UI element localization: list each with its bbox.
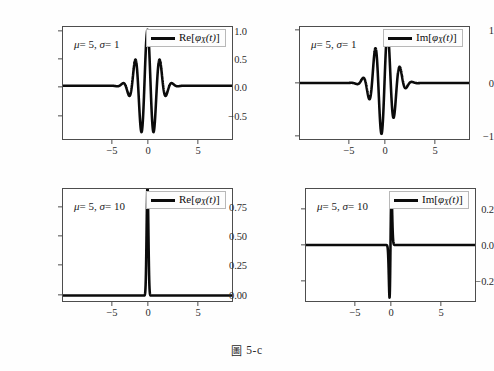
legend-suffix: ] bbox=[216, 31, 220, 43]
mu-value: = 5, bbox=[317, 38, 334, 50]
panel-bottom-left: 0.75 0.50 0.25 0.00 −5 0 5 μ= 5, σ= 10 R… bbox=[0, 176, 247, 336]
legend-line-swatch bbox=[388, 37, 412, 40]
ytick-label: 0.0 bbox=[191, 82, 247, 93]
legend-top-left[interactable]: Re[φX(t)] bbox=[146, 29, 226, 47]
ytick-label: 0.0 bbox=[442, 240, 494, 251]
legend-label: Re[φX(t)] bbox=[179, 194, 220, 206]
annotation-params: μ= 5, σ= 1 bbox=[74, 38, 119, 50]
sigma-value: = 10 bbox=[348, 200, 368, 212]
ytick-mark bbox=[58, 58, 62, 59]
mu-value: = 5, bbox=[80, 200, 97, 212]
ytick-mark bbox=[58, 206, 62, 207]
legend-suffix: ] bbox=[453, 31, 457, 43]
xtick-mark bbox=[111, 140, 112, 144]
figure-container: 1.0 0.5 0.0 −0.5 −5 0 5 μ= 5, σ= 1 Re[φX… bbox=[0, 0, 494, 371]
ytick-label: 0.00 bbox=[191, 290, 247, 301]
xtick-label: 5 bbox=[195, 145, 200, 156]
panel-bottom-right: 0.2 0.0 −0.2 −5 0 5 μ= 5, σ= 10 Im[φX(t)… bbox=[247, 176, 494, 336]
ytick-mark bbox=[301, 208, 305, 209]
xtick-mark bbox=[390, 302, 391, 306]
panel-top-left: 1.0 0.5 0.0 −0.5 −5 0 5 μ= 5, σ= 1 Re[φX… bbox=[0, 0, 247, 176]
caption-number: 5-c bbox=[246, 344, 262, 356]
ytick-label: 0.25 bbox=[191, 260, 247, 271]
phi-argument: (t) bbox=[443, 31, 453, 43]
sigma-value: = 1 bbox=[105, 38, 119, 50]
legend-label: Im[φX(t)] bbox=[416, 32, 457, 44]
phi-argument: (t) bbox=[449, 193, 459, 205]
annotation-params: μ= 5, σ= 10 bbox=[317, 200, 368, 212]
ytick-label: −1 bbox=[448, 131, 494, 142]
ytick-label: −0.5 bbox=[191, 111, 247, 122]
xtick-mark bbox=[434, 140, 435, 144]
phi-argument: (t) bbox=[206, 31, 216, 43]
figure-caption: 圖 5-c bbox=[0, 341, 494, 357]
panel-top-right: 1 0 −1 −5 0 5 μ= 5, σ= 1 Im[φX(t)] bbox=[247, 0, 494, 176]
legend-line-swatch bbox=[151, 37, 175, 40]
xtick-mark bbox=[440, 302, 441, 306]
xtick-label: 5 bbox=[432, 145, 437, 156]
legend-line-swatch bbox=[151, 199, 175, 202]
ytick-label: 0.5 bbox=[191, 54, 247, 65]
xtick-label: 0 bbox=[388, 307, 393, 318]
sigma-value: = 10 bbox=[105, 200, 125, 212]
legend-prefix: Im[ bbox=[422, 193, 438, 205]
mu-value: = 5, bbox=[80, 38, 97, 50]
legend-bottom-left[interactable]: Re[φX(t)] bbox=[146, 191, 226, 209]
legend-suffix: ] bbox=[459, 193, 463, 205]
caption-cjk-mark: 圖 bbox=[231, 342, 243, 358]
annotation-params: μ= 5, σ= 10 bbox=[74, 200, 125, 212]
xtick-label: −5 bbox=[106, 145, 117, 156]
ytick-mark bbox=[58, 86, 62, 87]
xtick-mark bbox=[111, 302, 112, 306]
mu-value: = 5, bbox=[323, 200, 340, 212]
ytick-mark bbox=[295, 82, 299, 83]
sigma-value: = 1 bbox=[342, 38, 356, 50]
ytick-mark bbox=[58, 294, 62, 295]
ytick-mark bbox=[301, 280, 305, 281]
ytick-mark bbox=[301, 244, 305, 245]
legend-bottom-right[interactable]: Im[φX(t)] bbox=[389, 191, 469, 209]
ytick-mark bbox=[295, 135, 299, 136]
ytick-label: 0.50 bbox=[191, 231, 247, 242]
phi-argument: (t) bbox=[206, 193, 216, 205]
xtick-label: 0 bbox=[382, 145, 387, 156]
ytick-mark bbox=[58, 115, 62, 116]
legend-label: Im[φX(t)] bbox=[422, 194, 463, 206]
xtick-mark bbox=[147, 302, 148, 306]
legend-top-right[interactable]: Im[φX(t)] bbox=[383, 29, 463, 47]
xtick-label: −5 bbox=[343, 145, 354, 156]
xtick-label: 5 bbox=[195, 307, 200, 318]
xtick-mark bbox=[354, 302, 355, 306]
annotation-params: μ= 5, σ= 1 bbox=[311, 38, 356, 50]
xtick-label: 0 bbox=[145, 145, 150, 156]
xtick-label: 0 bbox=[145, 307, 150, 318]
xtick-mark bbox=[384, 140, 385, 144]
xtick-mark bbox=[147, 140, 148, 144]
ytick-mark bbox=[58, 264, 62, 265]
xtick-mark bbox=[348, 140, 349, 144]
ytick-label: −0.2 bbox=[442, 276, 494, 287]
legend-prefix: Re[ bbox=[179, 193, 195, 205]
legend-line-swatch bbox=[394, 199, 418, 202]
xtick-label: 5 bbox=[438, 307, 443, 318]
legend-suffix: ] bbox=[216, 193, 220, 205]
xtick-label: −5 bbox=[106, 307, 117, 318]
xtick-label: −5 bbox=[349, 307, 360, 318]
xtick-mark bbox=[197, 140, 198, 144]
legend-prefix: Re[ bbox=[179, 31, 195, 43]
ytick-mark bbox=[58, 30, 62, 31]
legend-prefix: Im[ bbox=[416, 31, 432, 43]
ytick-mark bbox=[295, 29, 299, 30]
legend-label: Re[φX(t)] bbox=[179, 32, 220, 44]
ytick-mark bbox=[58, 235, 62, 236]
xtick-mark bbox=[197, 302, 198, 306]
ytick-label: 0 bbox=[448, 78, 494, 89]
